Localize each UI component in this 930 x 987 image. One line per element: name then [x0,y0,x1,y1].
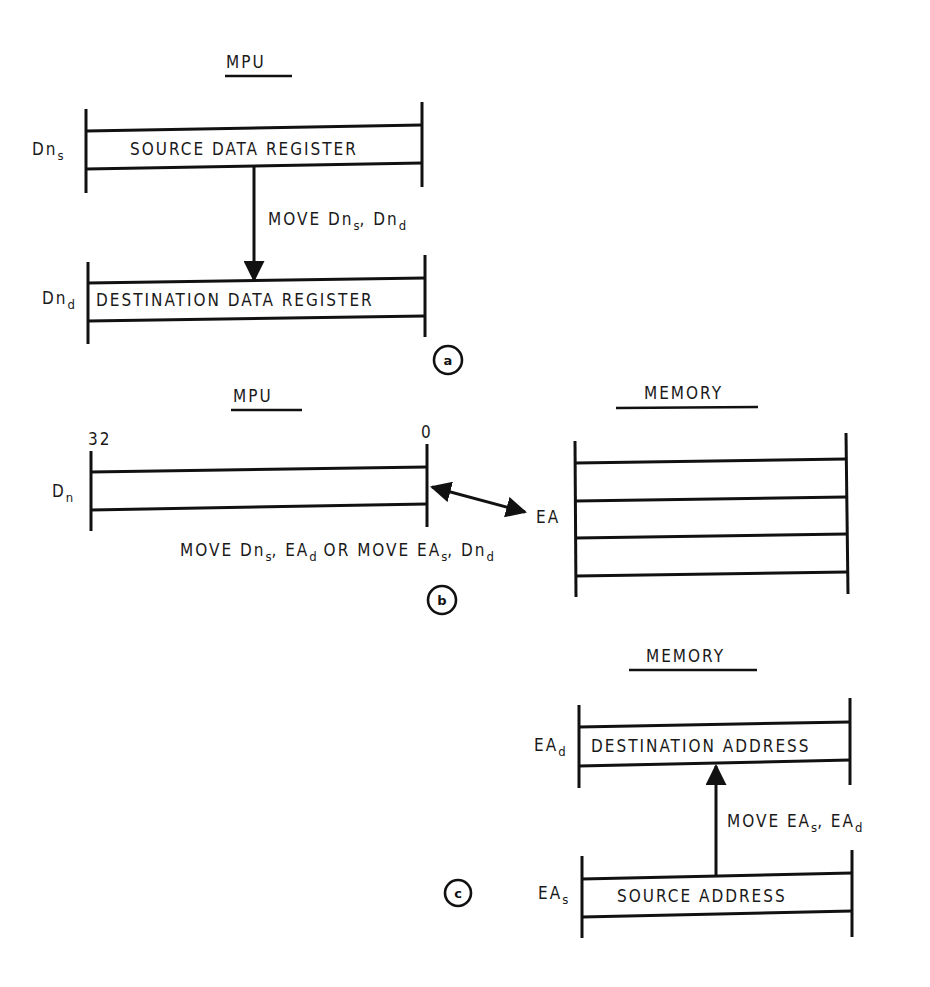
panel-b: MPU 32 0 Dn EA MOVE Dns, EAd OR MOVE EAs… [52,383,848,614]
destination-register-text: DESTINATION DATA REGISTER [96,290,374,310]
panel-b-label-icon: b [428,586,456,614]
destination-address-text: DESTINATION ADDRESS [591,736,810,756]
svg-text:b: b [437,593,446,608]
move-instruction-diagram: MPU SOURCE DATA REGISTER Dns MOVE Dns, D… [0,0,930,987]
panel-c: MEMORY DESTINATION ADDRESS EAd MOVE EAs,… [445,646,862,938]
panel-b-mpu-header: MPU [233,386,273,406]
panel-c-instruction: MOVE EAs, EAd [727,811,862,835]
header-underline [616,407,758,408]
svg-text:c: c [454,886,462,901]
svg-text:a: a [444,353,453,368]
source-address-name: EAs [538,883,568,907]
data-register-dn [91,444,427,531]
destination-register-name: Dnd [42,288,75,312]
source-address-text: SOURCE ADDRESS [617,886,787,906]
data-register-name: Dn [52,481,73,505]
memory-block [575,433,848,597]
panel-a-instruction: MOVE Dns, Dnd [268,209,406,233]
panel-b-instruction: MOVE Dns, EAd OR MOVE EAs, Dnd [180,540,494,564]
destination-data-register: DESTINATION DATA REGISTER [88,255,425,344]
panel-c-label-icon: c [445,880,471,906]
source-register-name: Dns [32,139,64,163]
panel-b-memory-header: MEMORY [644,383,723,403]
panel-a-mpu-header: MPU [226,52,266,72]
bit-low-label: 0 [421,422,433,442]
panel-a: MPU SOURCE DATA REGISTER Dns MOVE Dns, D… [32,52,462,374]
destination-address-name: EAd [534,735,566,759]
bit-high-label: 32 [88,429,111,449]
double-arrow-icon [432,487,525,512]
panel-c-memory-header: MEMORY [646,646,725,666]
source-register-text: SOURCE DATA REGISTER [130,139,358,159]
memory-location-label: EA [536,507,560,527]
panel-a-label-icon: a [434,346,462,374]
